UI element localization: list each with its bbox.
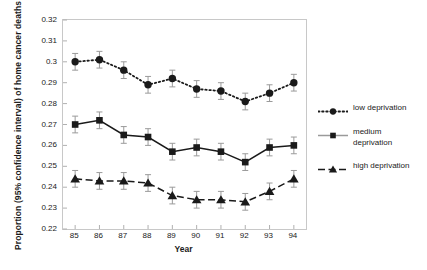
y-tick-label: 0.29	[30, 77, 60, 86]
x-tick-label: 90	[191, 231, 200, 240]
y-axis-label: Proportion (95% confidence interval) of …	[14, 0, 25, 249]
legend-label: high deprivation	[353, 161, 409, 172]
x-tick-label: 94	[288, 231, 297, 240]
legend-key-circle-icon	[318, 103, 348, 114]
legend-key-triangle-icon	[318, 161, 348, 172]
y-tick-label: 0.31	[30, 35, 60, 44]
y-tick-label: 0.22	[30, 224, 60, 233]
chart-svg	[63, 20, 306, 229]
x-tick-label: 89	[167, 231, 176, 240]
chart-legend: low deprivationmedium deprivationhigh de…	[318, 103, 426, 185]
x-tick-label: 91	[215, 231, 224, 240]
y-tick-label: 0.24	[30, 182, 60, 191]
y-tick-label: 0.28	[30, 98, 60, 107]
legend-item: high deprivation	[318, 161, 426, 172]
legend-key-square-icon	[318, 127, 348, 138]
legend-label: low deprivation	[353, 103, 406, 114]
series-high-deprivation	[70, 170, 298, 210]
legend-item: low deprivation	[318, 103, 426, 114]
legend-label: medium deprivation	[353, 127, 405, 148]
x-axis-label: Year	[62, 244, 305, 254]
y-tick-label: 0.27	[30, 119, 60, 128]
x-tick-label: 88	[143, 231, 152, 240]
x-tick-label: 92	[240, 231, 249, 240]
series-medium-deprivation	[72, 112, 297, 171]
legend-item: medium deprivation	[318, 127, 426, 148]
x-tick-label: 93	[264, 231, 273, 240]
y-tick-label: 0.25	[30, 161, 60, 170]
x-tick-label: 87	[118, 231, 127, 240]
x-tick-label: 86	[94, 231, 103, 240]
series-low-deprivation	[71, 51, 297, 110]
y-tick-label: 0.23	[30, 203, 60, 212]
x-tick-label: 85	[70, 231, 79, 240]
y-tick-label: 0.26	[30, 140, 60, 149]
chart-container: Proportion (95% confidence interval) of …	[0, 0, 427, 270]
y-tick-label: 0.3	[30, 56, 60, 65]
y-tick-label: 0.32	[30, 15, 60, 24]
y-axis-tick-labels: 0.220.230.240.250.260.270.280.290.30.310…	[30, 0, 60, 270]
plot-area	[62, 19, 307, 230]
